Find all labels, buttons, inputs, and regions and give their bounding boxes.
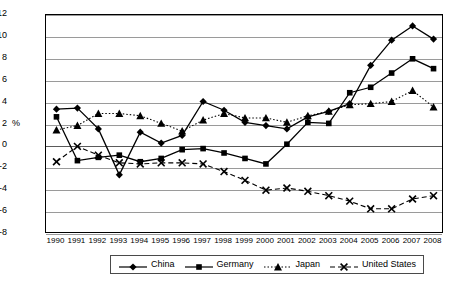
y-axis-tick-label: 12 [0,9,7,18]
y-axis-tick-label: 4 [0,97,7,106]
cross-marker-icon [329,259,359,271]
x-axis-tick-group: 1990199119921993199419951996199719981999… [45,236,443,250]
diamond-marker-icon [118,259,148,271]
legend-label: United States [362,260,416,269]
diamond-marker-icon [283,125,290,132]
diamond-marker-icon [137,129,144,136]
cross-marker-icon [242,177,249,184]
square-marker-icon [242,156,248,162]
legend-item-japan[interactable]: Japan [263,259,321,271]
legend-label: Japan [296,260,321,269]
series-line [56,59,433,164]
y-axis-label: % [12,118,20,128]
square-marker-icon [305,120,311,126]
diamond-marker-icon [409,22,416,29]
triangle-marker-icon [52,126,60,133]
square-marker-icon [389,70,395,76]
legend-item-united-states[interactable]: United States [329,259,416,271]
y-axis-tick-label: 8 [0,53,7,62]
y-axis-tick-label: -6 [0,206,7,215]
chart-legend: ChinaGermanyJapanUnited States [110,255,424,274]
line-chart: % 121086420-2-4-6-8 19901991199219931994… [0,0,456,282]
triangle-marker-icon [94,110,102,117]
series-line [56,26,433,175]
diamond-marker-icon [129,263,136,270]
y-axis-tick-label: -4 [0,184,7,193]
series-layer [46,15,444,234]
triangle-marker-icon [430,103,438,110]
cross-marker-icon [367,205,374,212]
triangle-marker-icon [388,98,396,105]
square-marker-icon [75,158,81,164]
triangle-marker-icon [73,122,81,129]
square-marker-icon [410,56,416,62]
legend-label: China [151,260,175,269]
diamond-marker-icon [262,122,269,129]
y-axis-tick-label: -8 [0,228,7,237]
y-axis-tick-label: 2 [0,119,7,128]
square-marker-icon [117,152,123,158]
cross-marker-icon [221,168,228,175]
square-marker-icon [200,146,206,152]
y-axis-tick-label: 6 [0,75,7,84]
legend-item-china[interactable]: China [118,259,175,271]
series-china [53,22,437,178]
diamond-marker-icon [430,35,437,42]
square-marker-icon [179,147,185,153]
x-axis-tick-label: 2008 [420,236,446,246]
square-marker-icon [284,141,290,147]
diamond-marker-icon [200,98,207,105]
plot-area [45,14,443,233]
square-marker-icon [347,90,353,96]
y-axis-tick-label: -2 [0,162,7,171]
cross-marker-icon [53,158,60,165]
cross-marker-icon [346,198,353,205]
diamond-marker-icon [116,171,123,178]
cross-marker-icon [74,143,81,150]
diamond-marker-icon [158,140,165,147]
square-marker-icon [326,121,332,127]
triangle-marker-icon [199,116,207,123]
triangle-marker-icon [157,119,165,126]
square-marker-icon [431,66,437,72]
y-axis-tick-label: 10 [0,31,7,40]
square-marker-icon [196,264,202,270]
series-united-states [53,143,437,212]
square-marker-icon [221,150,227,156]
legend-item-germany[interactable]: Germany [184,259,254,271]
gridline [46,234,442,235]
y-axis-tick-label: 0 [0,140,7,149]
square-marker-icon [184,259,214,271]
square-marker-icon [54,114,60,120]
triangle-marker-icon [409,87,417,94]
triangle-marker-icon [367,100,375,107]
diamond-marker-icon [53,106,60,113]
legend-label: Germany [217,260,254,269]
square-marker-icon [368,84,374,90]
series-germany [54,56,437,167]
series-japan [52,87,437,135]
triangle-marker-icon [263,259,293,271]
square-marker-icon [263,161,269,167]
cross-marker-icon [388,205,395,212]
